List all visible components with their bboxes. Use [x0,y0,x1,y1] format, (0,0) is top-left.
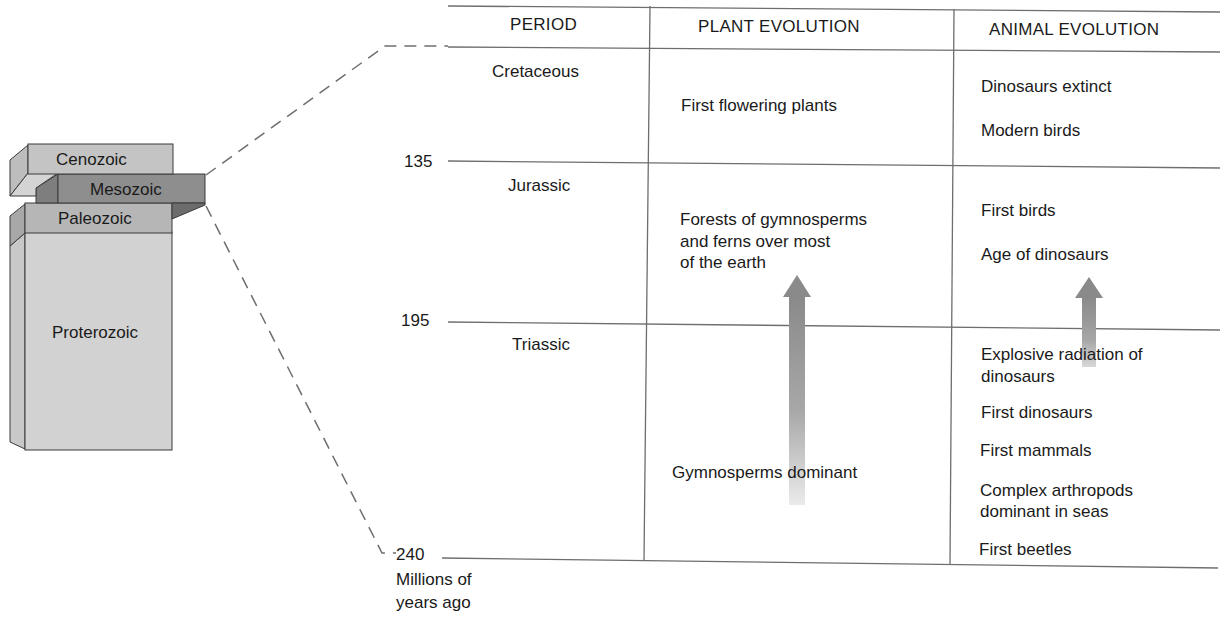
animal-cretaceous-1: Modern birds [981,120,1080,141]
era-label-mesozoic: Mesozoic [90,180,162,200]
axis-unit-line2: years ago [396,592,471,613]
period-jurassic: Jurassic [508,175,570,196]
animal-triassic-4: Complex arthropods [980,480,1133,501]
animal-triassic-5: dominant in seas [980,501,1109,522]
plant-jurassic-1: and ferns over most [680,231,830,252]
animal-jurassic-0: First birds [981,200,1056,221]
animal-triassic-2: First dinosaurs [981,402,1092,423]
proterozoic-side [10,233,25,449]
header-plant-evolution: PLANT EVOLUTION [698,17,860,37]
plant-jurassic-0: Forests of gymnosperms [680,209,867,230]
tick-135: 135 [404,152,432,172]
animal-cretaceous-0: Dinosaurs extinct [981,76,1111,97]
animal-triassic-6: First beetles [979,539,1072,560]
era-label-proterozoic: Proterozoic [52,323,138,343]
animal-triassic-3: First mammals [980,440,1091,461]
header-period: PERIOD [510,15,577,35]
era-label-paleozoic: Paleozoic [58,209,132,229]
axis-unit-line1: Millions of [396,569,472,590]
plant-triassic-0: Gymnosperms dominant [672,462,857,483]
animal-triassic-1: dinosaurs [981,366,1055,387]
animal-triassic-0: Explosive radiation of [981,344,1143,365]
tick-195: 195 [401,311,429,331]
connector-bottom [206,206,396,553]
animal-jurassic-1: Age of dinosaurs [981,244,1109,265]
plant-cretaceous-0: First flowering plants [681,95,837,116]
tick-240: 240 [396,545,424,565]
mesozoic-bottom-face [172,203,205,219]
plant-jurassic-2: of the earth [680,252,766,273]
header-animal-evolution: ANIMAL EVOLUTION [989,20,1159,40]
era-label-cenozoic: Cenozoic [56,150,127,170]
period-triassic: Triassic [512,334,570,355]
period-cretaceous: Cretaceous [492,61,579,82]
zoom-connectors [206,46,448,553]
